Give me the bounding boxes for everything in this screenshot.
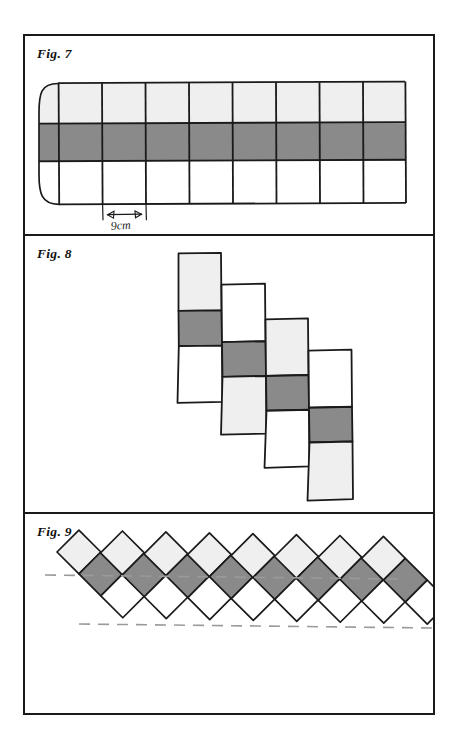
fig7-dimension: 9cm xyxy=(103,204,147,233)
fig7-strip-body xyxy=(35,80,410,209)
fig8-strip-2-cell-2 xyxy=(222,341,266,377)
outer-frame: Fig. 7 xyxy=(23,34,435,715)
fig8-strip-2-cell-1 xyxy=(222,284,266,343)
fig7-row-middle xyxy=(35,123,410,161)
fig8-strip-4-cell-2 xyxy=(309,407,353,443)
fig8-strip-2-cell-3 xyxy=(221,376,267,435)
fig8-strip-3 xyxy=(265,318,310,467)
fig8-strip-2 xyxy=(221,284,267,435)
fig8-strip-4 xyxy=(308,350,354,501)
figure-drawing-fig7: 9cm xyxy=(25,36,433,234)
fig8-strip-1-cell-1 xyxy=(179,253,222,311)
figure-panel-fig9: Fig. 9 xyxy=(25,514,433,713)
fig8-strip-3-cell-1 xyxy=(266,318,309,376)
fig8-strip-4-cell-3 xyxy=(308,442,354,501)
figure-drawing-fig9 xyxy=(25,514,433,713)
fig8-strip-1-cell-3 xyxy=(178,346,223,403)
figure-drawing-fig8 xyxy=(25,236,433,512)
figure-panel-fig8: Fig. 8 xyxy=(25,236,433,514)
fig8-strip-3-cell-3 xyxy=(265,410,310,468)
fig8-strip-4-cell-1 xyxy=(309,350,353,408)
fig8-strip-3-cell-2 xyxy=(266,375,309,411)
fig9-guide-line-lower xyxy=(79,624,433,628)
fig7-row-bottom xyxy=(35,161,410,209)
fig8-strip-1 xyxy=(178,253,223,403)
figure-panel-fig7: Fig. 7 xyxy=(25,36,433,236)
fig7-dimension-label: 9cm xyxy=(110,218,131,233)
fig8-strip-1-cell-2 xyxy=(179,310,223,346)
figure-sheet: Fig. 7 xyxy=(0,0,455,747)
fig7-edge-right xyxy=(405,82,406,203)
fig7-row-top xyxy=(35,80,410,124)
